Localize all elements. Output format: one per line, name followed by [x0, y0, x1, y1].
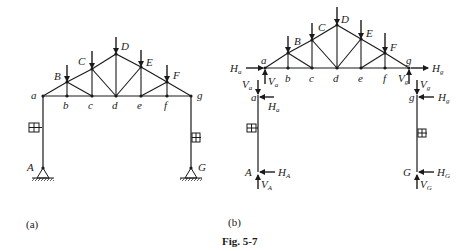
svg-text:e: e	[358, 72, 363, 84]
svg-text:d: d	[112, 99, 118, 111]
svg-text:B: B	[54, 70, 61, 82]
force-Vg-column: Vg	[417, 78, 431, 94]
panel-b: a b c d e f g B C D E F a g A G Ha Va	[228, 7, 450, 229]
svg-text:a: a	[261, 54, 267, 66]
load-symbol-right-a	[192, 133, 201, 142]
svg-text:a: a	[251, 91, 257, 103]
svg-text:Va: Va	[268, 75, 279, 89]
svg-text:b: b	[63, 99, 69, 111]
svg-text:F: F	[172, 69, 180, 81]
svg-text:C: C	[78, 55, 86, 67]
svg-text:Va: Va	[242, 78, 253, 92]
force-VA: VA	[258, 175, 273, 192]
load-symbol-left-a	[29, 123, 42, 132]
svg-text:G: G	[198, 161, 206, 173]
joint-labels-b: a b c d e f g B C D E F a g A G	[244, 13, 415, 178]
svg-text:Hg: Hg	[431, 62, 444, 76]
svg-text:A: A	[26, 161, 34, 173]
pin-support-A	[32, 166, 54, 181]
svg-text:E: E	[365, 27, 373, 39]
figure-canvas: a b c d e f g B C D E F A G	[0, 0, 474, 251]
svg-text:c: c	[309, 72, 314, 84]
panel-b-label: (b)	[228, 216, 241, 229]
svg-text:Vg: Vg	[420, 78, 431, 92]
svg-text:HA: HA	[277, 166, 291, 180]
panel-a-label: (a)	[26, 218, 39, 231]
svg-text:a: a	[31, 89, 37, 101]
svg-text:D: D	[120, 40, 129, 52]
force-Hg-column: Hg	[419, 91, 450, 105]
svg-text:VA: VA	[261, 178, 273, 192]
svg-text:g: g	[409, 91, 415, 103]
force-VG: VG	[417, 175, 432, 192]
svg-text:Hg: Hg	[437, 91, 450, 105]
svg-text:c: c	[88, 99, 93, 111]
svg-text:e: e	[137, 99, 142, 111]
force-Va-truss: Va	[265, 70, 279, 89]
load-symbol-left-b	[247, 124, 258, 132]
svg-text:B: B	[294, 35, 301, 47]
force-Hg-truss: Hg	[411, 62, 444, 76]
force-Ha-truss: Ha	[229, 62, 263, 76]
panel-a: a b c d e f g B C D E F A G	[26, 37, 206, 231]
figure-caption: Fig. 5-7	[222, 235, 258, 247]
svg-text:D: D	[340, 13, 349, 25]
load-symbol-right-b	[418, 129, 427, 137]
svg-text:g: g	[406, 54, 412, 66]
svg-text:g: g	[197, 89, 203, 101]
svg-text:f: f	[164, 99, 169, 111]
force-Ha-column: Ha	[260, 97, 280, 114]
force-Vg-truss: Vg	[398, 70, 409, 86]
svg-text:Ha: Ha	[229, 62, 242, 76]
svg-text:VG: VG	[420, 178, 432, 192]
svg-text:Ha: Ha	[267, 100, 280, 114]
svg-text:C: C	[318, 21, 326, 33]
svg-text:Vg: Vg	[398, 72, 409, 86]
truss-b	[263, 23, 410, 69]
svg-text:A: A	[244, 166, 252, 178]
svg-text:f: f	[383, 72, 388, 84]
truss-a	[41, 52, 192, 97]
svg-text:E: E	[145, 56, 153, 68]
svg-text:F: F	[389, 41, 397, 53]
svg-text:b: b	[285, 72, 291, 84]
svg-text:HG: HG	[436, 166, 450, 180]
svg-text:G: G	[403, 166, 411, 178]
svg-text:d: d	[333, 72, 339, 84]
